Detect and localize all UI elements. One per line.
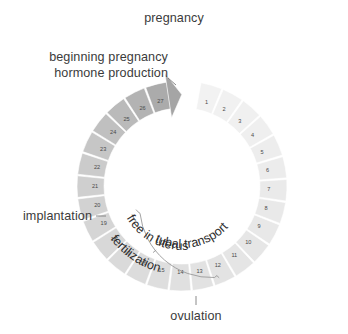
segment-ring (77, 82, 287, 291)
segment-number-12: 12 (215, 262, 221, 268)
label-ovulation: ovulation (170, 309, 221, 323)
segment-number-11: 11 (231, 252, 237, 258)
segment-number-24: 24 (110, 129, 116, 135)
segment-number-23: 23 (100, 146, 106, 152)
segment-number-20: 20 (94, 202, 100, 208)
bracket-tick-free-uterus (136, 210, 138, 212)
cycle-segment-21[interactable] (77, 176, 104, 198)
segment-number-13: 13 (196, 268, 202, 274)
segment-number-26: 26 (139, 105, 145, 111)
label-tubal-transport: tubal transport (153, 219, 231, 251)
cycle-segment-7[interactable] (259, 180, 287, 202)
segment-number-9: 9 (257, 223, 260, 229)
segment-number-2: 2 (223, 106, 226, 112)
cycle-diagram: 1234567891011121314151617181920212223242… (0, 0, 348, 334)
segment-number-6: 6 (266, 167, 269, 173)
segment-number-10: 10 (245, 239, 251, 245)
segment-number-8: 8 (264, 205, 267, 211)
label-beginning-pregnancy: beginning pregnancy (49, 50, 168, 64)
segment-number-25: 25 (123, 116, 129, 122)
segment-number-7: 7 (267, 186, 270, 192)
segment-number-27: 27 (157, 98, 163, 104)
cycle-diagram-canvas: 1234567891011121314151617181920212223242… (0, 0, 348, 334)
segment-number-21: 21 (92, 183, 98, 189)
segment-number-19: 19 (101, 220, 107, 226)
segment-number-4: 4 (251, 132, 254, 138)
segment-number-5: 5 (260, 149, 263, 155)
label-implantation: implantation (23, 209, 92, 223)
segment-number-3: 3 (238, 118, 241, 124)
segment-number-22: 22 (94, 164, 100, 170)
cycle-segment-14[interactable] (169, 263, 191, 291)
label-hormone-production: hormone production (54, 66, 168, 80)
label-pregnancy: pregnancy (144, 11, 204, 25)
segment-number-1: 1 (205, 99, 208, 105)
